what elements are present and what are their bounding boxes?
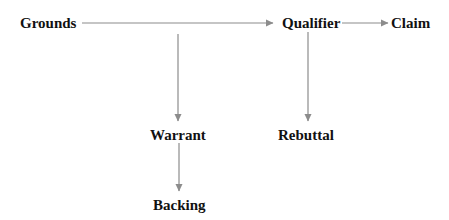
node-grounds: Grounds xyxy=(20,15,76,31)
node-warrant: Warrant xyxy=(150,127,206,143)
node-claim: Claim xyxy=(391,15,430,31)
node-rebuttal: Rebuttal xyxy=(278,127,334,143)
node-qualifier: Qualifier xyxy=(282,15,340,31)
toulmin-diagram: Grounds Qualifier Claim Warrant Rebuttal… xyxy=(0,0,449,220)
node-backing: Backing xyxy=(153,197,206,213)
diagram-arrows xyxy=(0,0,449,220)
